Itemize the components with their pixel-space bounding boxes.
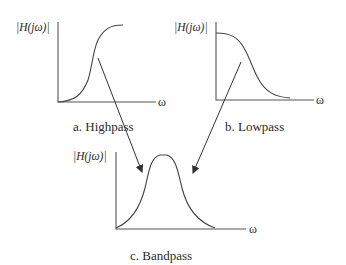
highpass-x-label: ω bbox=[158, 95, 166, 109]
highpass-y-label: |H(jω)| bbox=[16, 21, 50, 34]
lowpass-x-label: ω bbox=[316, 93, 324, 107]
filter-diagram: |H(jω)| ω a. Highpass |H(jω)| ω b. Lowpa… bbox=[0, 0, 346, 265]
bandpass-y-label: |H(jω)| bbox=[73, 150, 107, 163]
bandpass-axes bbox=[116, 152, 246, 229]
lowpass-curve bbox=[216, 33, 290, 98]
bandpass-x-label: ω bbox=[249, 222, 257, 236]
bandpass-curve bbox=[116, 155, 215, 228]
lowpass-caption: b. Lowpass bbox=[225, 119, 284, 134]
bandpass-panel: |H(jω)| ω c. Bandpass bbox=[73, 150, 257, 263]
lowpass-y-label: |H(jω)| bbox=[174, 21, 208, 34]
highpass-axes bbox=[58, 22, 156, 102]
highpass-panel: |H(jω)| ω a. Highpass bbox=[16, 21, 166, 134]
bandpass-caption: c. Bandpass bbox=[130, 248, 192, 263]
arrow-lowpass-to-bandpass bbox=[193, 62, 241, 173]
highpass-curve bbox=[58, 25, 123, 102]
lowpass-panel: |H(jω)| ω b. Lowpass bbox=[174, 21, 324, 134]
